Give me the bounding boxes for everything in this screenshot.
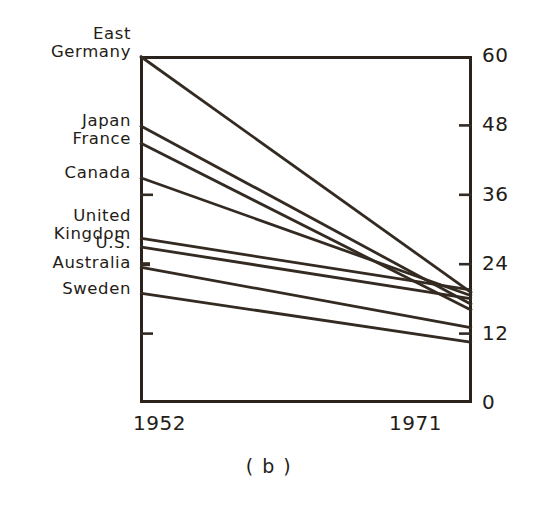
series-label-east-germany: East Germany [51,25,131,61]
y-tick-label-60: 60 [482,45,508,65]
figure-caption: ( b ) [0,455,538,477]
figure-slopegraph: East GermanyJapanFranceCanadaUnited King… [0,0,538,507]
series-line-canada [140,177,472,296]
series-label-column: East GermanyJapanFranceCanadaUnited King… [0,0,136,507]
series-label-canada: Canada [65,164,131,182]
y-tick-label-24: 24 [482,253,508,273]
series-line-u-s [140,247,472,299]
series-line-france [140,143,472,311]
series-label-u-s: U.S. [96,234,131,252]
series-line-united-kingdom [140,238,472,290]
series-label-france: France [73,130,131,148]
x-axis-label-end: 1971 [389,412,442,434]
y-tick-label-12: 12 [482,323,508,343]
plot-area [140,56,472,403]
y-tick-label-48: 48 [482,114,508,134]
series-label-sweden: Sweden [62,280,131,298]
series-line-east-germany [140,56,472,293]
y-tick-label-0: 0 [482,392,495,412]
series-label-australia: Australia [53,254,131,272]
y-tick-label-36: 36 [482,184,508,204]
x-axis-label-start: 1952 [133,412,186,434]
series-label-japan: Japan [82,112,131,130]
